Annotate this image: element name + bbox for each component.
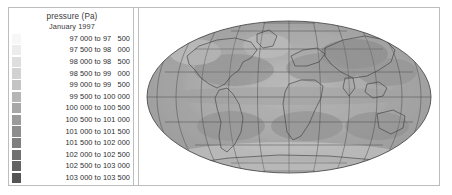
figure-root: pressure (Pa) January 1997 97 000 to 97 …	[0, 0, 452, 195]
legend-row: 98 500 to 99 000	[9, 68, 135, 80]
legend-row: 102 500 to 103 000	[9, 161, 135, 173]
legend-color-swatch	[12, 161, 21, 171]
legend-color-swatch	[12, 92, 21, 102]
world-pressure-map	[139, 8, 439, 185]
legend-color-swatch	[12, 80, 21, 90]
legend-row: 100 000 to 100 500	[9, 103, 135, 115]
map-panel	[138, 7, 440, 186]
legend-row: 100 500 to 101 000	[9, 114, 135, 126]
legend-range-label: 99 500 to 100 000	[21, 92, 135, 102]
legend-range-label: 100 500 to 101 000	[21, 115, 135, 125]
legend-range-label: 98 500 to 99 000	[21, 69, 135, 79]
legend-subtitle: January 1997	[9, 22, 135, 32]
legend-range-label: 102 500 to 103 000	[21, 161, 135, 171]
legend-color-swatch	[12, 45, 21, 55]
legend-color-swatch	[12, 173, 21, 183]
legend-range-label: 103 000 to 103 500	[21, 173, 135, 183]
legend-panel: pressure (Pa) January 1997 97 000 to 97 …	[8, 7, 134, 186]
legend-color-swatch	[12, 126, 21, 136]
legend-row: 103 000 to 103 500	[9, 172, 135, 184]
legend-row: 99 000 to 99 500	[9, 79, 135, 91]
legend-row: 101 000 to 101 500	[9, 126, 135, 138]
legend-range-label: 99 000 to 99 500	[21, 80, 135, 90]
legend-color-swatch	[12, 138, 21, 148]
legend-header: pressure (Pa) January 1997	[9, 12, 135, 32]
legend-color-swatch	[12, 68, 21, 78]
legend-range-label: 98 000 to 98 500	[21, 57, 135, 67]
legend-range-label: 102 000 to 102 500	[21, 150, 135, 160]
legend-row: 98 000 to 98 500	[9, 56, 135, 68]
legend-row: 97 000 to 97 500	[9, 33, 135, 45]
legend-color-swatch	[12, 57, 21, 67]
legend-row: 102 000 to 102 500	[9, 149, 135, 161]
legend-color-swatch	[12, 34, 21, 44]
legend-range-label: 97 000 to 97 500	[21, 34, 135, 44]
legend-color-swatch	[12, 115, 21, 125]
legend-range-label: 100 000 to 100 500	[21, 103, 135, 113]
legend-row: 99 500 to 100 000	[9, 91, 135, 103]
legend-entry-list: 97 000 to 97 50097 500 to 98 00098 000 t…	[9, 33, 135, 184]
legend-row: 101 500 to 102 000	[9, 137, 135, 149]
legend-range-label: 101 000 to 101 500	[21, 127, 135, 137]
legend-row: 97 500 to 98 000	[9, 45, 135, 57]
legend-color-swatch	[12, 150, 21, 160]
legend-title: pressure (Pa)	[9, 12, 135, 22]
legend-range-label: 101 500 to 102 000	[21, 138, 135, 148]
legend-range-label: 97 500 to 98 000	[21, 45, 135, 55]
legend-color-swatch	[12, 103, 21, 113]
